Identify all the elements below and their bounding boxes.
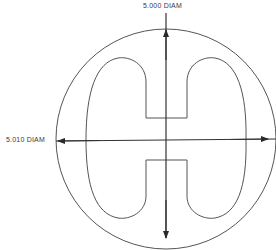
inner-cutout-lower-right — [187, 140, 246, 218]
horizontal-arrow-right — [230, 139, 268, 140]
inner-cutout-lower-left — [86, 140, 146, 218]
inner-cutout-upper-right — [187, 58, 246, 140]
diagram-canvas: 5.000 DIAM 5.010 DIAM — [0, 0, 276, 250]
horizontal-dimension-label: 5.010 DIAM — [6, 136, 45, 143]
horizontal-arrow-left — [58, 141, 100, 142]
vertical-dimension-label: 5.000 DIAM — [143, 2, 182, 9]
drawing-svg — [0, 0, 276, 250]
inner-cutout-upper — [86, 58, 146, 140]
